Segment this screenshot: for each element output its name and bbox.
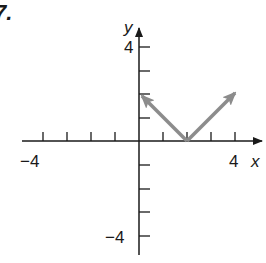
x-tick-label-neg4: −4 [20,152,39,171]
y-tick-label-neg4: −4 [105,228,124,247]
y-tick-label-4: 4 [124,38,133,57]
y-axis-label: y [123,18,134,37]
x-tick-label-4: 4 [229,152,238,171]
coordinate-plane: −4 4 x y 4 −4 [0,0,266,263]
x-axis-label: x [250,152,260,171]
